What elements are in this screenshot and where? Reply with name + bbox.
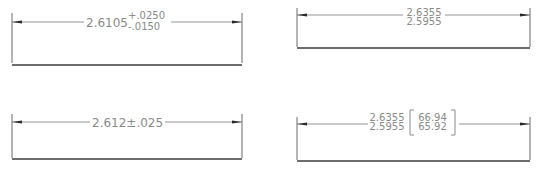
- panel-limits-alternate: 2.6355 2.5955 66.94 65.92: [297, 110, 530, 161]
- arrowhead-left-icon: [297, 123, 307, 126]
- lower-limit: 2.5955: [407, 16, 442, 27]
- arrowhead-right-icon: [232, 21, 242, 24]
- lower-tolerance: -.0150: [128, 21, 160, 32]
- nominal-value: 2.6105: [86, 16, 128, 30]
- panel-symmetrical: 2.612±.025: [12, 114, 242, 159]
- dimension-drawing: 2.6105 +.0250 -.0150 2.6355 2.5955 2.612…: [0, 0, 541, 175]
- arrowhead-left-icon: [12, 21, 22, 24]
- arrowhead-right-icon: [520, 123, 530, 126]
- arrowhead-left-icon: [12, 121, 22, 124]
- right-bracket-icon: [451, 110, 455, 135]
- panel-deviation: 2.6105 +.0250 -.0150: [12, 10, 242, 65]
- alt-lower-limit: 65.92: [418, 121, 447, 132]
- panel-limits: 2.6355 2.5955: [297, 7, 530, 48]
- arrowhead-left-icon: [297, 14, 307, 17]
- symmetrical-value: 2.612±.025: [92, 116, 163, 130]
- lower-limit: 2.5955: [370, 121, 405, 132]
- upper-tolerance: +.0250: [128, 10, 165, 21]
- left-bracket-icon: [410, 110, 414, 135]
- arrowhead-right-icon: [520, 14, 530, 17]
- arrowhead-right-icon: [232, 121, 242, 124]
